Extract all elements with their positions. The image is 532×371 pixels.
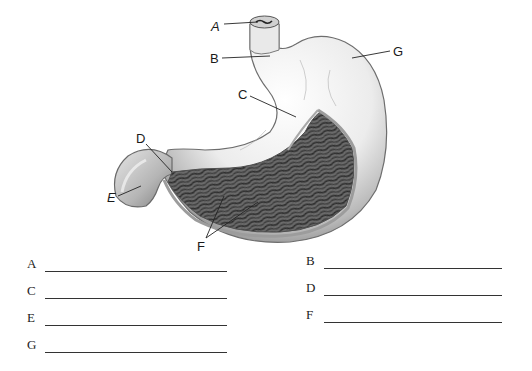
answer-row-g: G [27,337,227,353]
diagram-label-b: B [210,52,219,65]
answer-blank-g[interactable] [45,352,227,353]
diagram-label-g: G [393,45,403,58]
stomach-illustration [0,0,532,260]
pylorus [115,149,173,206]
answer-blank-f[interactable] [324,322,502,323]
diagram-label-c: C [238,88,247,101]
answer-row-c: C [27,283,227,299]
answer-row-f: F [306,307,506,323]
answer-blank-e[interactable] [45,325,227,326]
answer-row-d: D [306,280,506,296]
diagram-label-a: A [211,20,220,33]
answer-row-e: E [27,310,227,326]
diagram-label-d: D [136,132,145,145]
answer-letter: C [27,284,36,297]
answer-blank-b[interactable] [324,268,502,269]
answer-letter: A [27,257,36,270]
answer-letter: G [27,338,36,351]
diagram-label-e: E [107,191,116,204]
answer-letter: D [306,281,315,294]
answer-letter: F [306,308,313,321]
answer-blank-c[interactable] [45,298,227,299]
answer-row-b: B [306,253,506,269]
answer-blank-d[interactable] [324,295,502,296]
answer-row-a: A [27,256,227,272]
diagram-label-f: F [197,240,205,253]
answer-blank-a[interactable] [45,271,227,272]
answer-letter: B [306,254,315,267]
answer-letter: E [27,311,35,324]
